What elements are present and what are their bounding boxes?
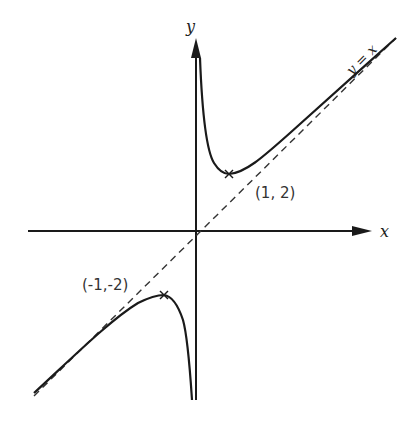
y-axis-label: y (185, 17, 196, 36)
curve-lower-branch (34, 295, 192, 400)
y-axis-arrow-icon (191, 38, 201, 58)
x-axis-label: x (380, 222, 389, 241)
function-graph: x y y = x (1, 2) (-1,-2) (0, 0, 414, 423)
point-label-maximum: (-1,-2) (82, 276, 128, 294)
x-axis-arrow-icon (352, 226, 372, 236)
point-label-minimum: (1, 2) (255, 184, 295, 202)
y-axis (191, 38, 201, 400)
